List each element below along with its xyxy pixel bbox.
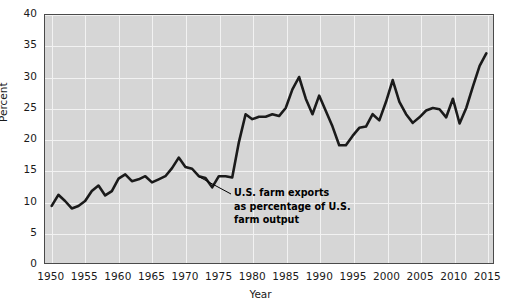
annotation-line: U.S. farm exports [234,186,351,200]
annotation-line: as percentage of U.S. [234,200,351,214]
chart-container: Percent 0510152025303540 195019551960196… [0,0,521,307]
x-axis-label: Year [0,288,521,300]
y-axis-tick-label: 0 [0,257,37,269]
y-axis-tick-label: 25 [0,101,37,113]
chart-annotation: U.S. farm exportsas percentage of U.S.fa… [234,186,351,227]
y-axis-tick-label: 5 [0,226,37,238]
annotation-line: farm output [234,213,351,227]
y-axis-tick-label: 40 [0,7,37,19]
y-axis-tick-label: 35 [0,38,37,50]
y-axis-tick-label: 10 [0,195,37,207]
y-axis-tick-label: 15 [0,163,37,175]
y-axis-tick-label: 30 [0,70,37,82]
x-axis-tick-label: 2015 [465,270,509,282]
y-axis-tick-label: 20 [0,132,37,144]
